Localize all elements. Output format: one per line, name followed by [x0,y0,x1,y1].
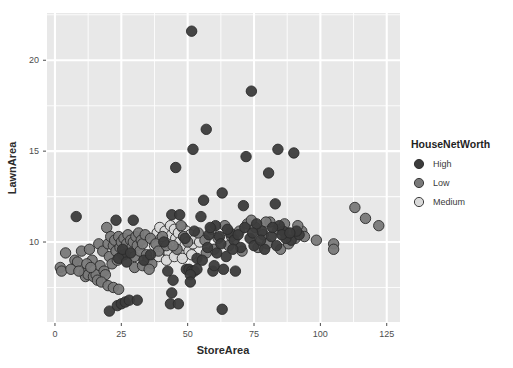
data-point [196,211,206,221]
data-point [111,215,121,225]
data-point [125,248,135,258]
data-point [198,195,208,205]
plot-canvas: 0255075100125 101520 StoreArea LawnArea … [0,0,513,368]
data-point [197,255,207,265]
y-tick-label: 10 [29,237,39,247]
data-point [246,86,256,96]
x-tick-label: 50 [183,329,193,339]
data-point [217,304,227,314]
data-point [71,211,81,221]
data-point [222,224,232,234]
data-point [201,124,211,134]
x-tick-label: 25 [116,329,126,339]
data-point [228,244,238,254]
data-point [186,26,196,36]
data-point [271,240,281,250]
legend-item-high[interactable]: High [414,159,451,169]
y-tick-label: 15 [29,146,39,156]
scatter-plot-figure: 0255075100125 101520 StoreArea LawnArea … [0,0,513,368]
data-point [175,210,185,220]
data-point [177,253,187,263]
legend-item-label: Low [433,178,450,188]
data-point [163,266,173,276]
data-point [86,262,96,272]
legend-item-label: High [433,159,452,169]
x-axis-title: StoreArea [197,344,250,356]
data-point [311,235,321,245]
legend-title: HouseNetWorth [411,138,490,150]
data-point [255,235,265,245]
data-point [168,240,178,250]
data-point [185,277,195,287]
data-point [144,264,154,274]
y-tick-label: 20 [29,55,39,65]
data-point [216,239,226,249]
data-point [263,168,273,178]
legend-swatch-icon [414,159,423,168]
data-point [238,200,248,210]
data-point [84,244,94,254]
data-point [159,237,169,247]
data-point [128,215,138,225]
data-point [374,220,384,230]
data-point [270,199,280,209]
data-point [168,275,178,285]
data-point [209,260,219,270]
legend-item-label: Medium [433,197,465,207]
data-point [180,233,190,243]
data-point [328,244,338,254]
data-point [350,202,360,212]
data-point [205,222,215,232]
x-tick-label: 0 [52,329,57,339]
data-point [267,222,277,232]
data-point [132,295,142,305]
legend-swatch-icon [414,197,423,206]
data-point [176,220,186,230]
data-point [113,284,123,294]
data-point [285,228,295,238]
legend-swatch-icon [414,178,423,187]
y-axis-title: LawnArea [6,141,18,194]
data-point [217,188,227,198]
legend-item-medium[interactable]: Medium [414,197,465,207]
x-tick-label: 125 [379,329,394,339]
data-point [173,299,183,309]
data-point [56,266,66,276]
data-point [167,288,177,298]
data-point [289,148,299,158]
data-point [60,248,70,258]
data-point [188,144,198,154]
x-tick-label: 75 [249,329,259,339]
data-point [360,213,370,223]
data-point [241,151,251,161]
data-point [230,266,240,276]
x-tick-label: 100 [313,329,328,339]
data-point [145,250,155,260]
data-point [189,226,199,236]
data-point [202,242,212,252]
data-point [273,144,283,154]
legend-item-low[interactable]: Low [414,178,450,188]
data-point [171,162,181,172]
